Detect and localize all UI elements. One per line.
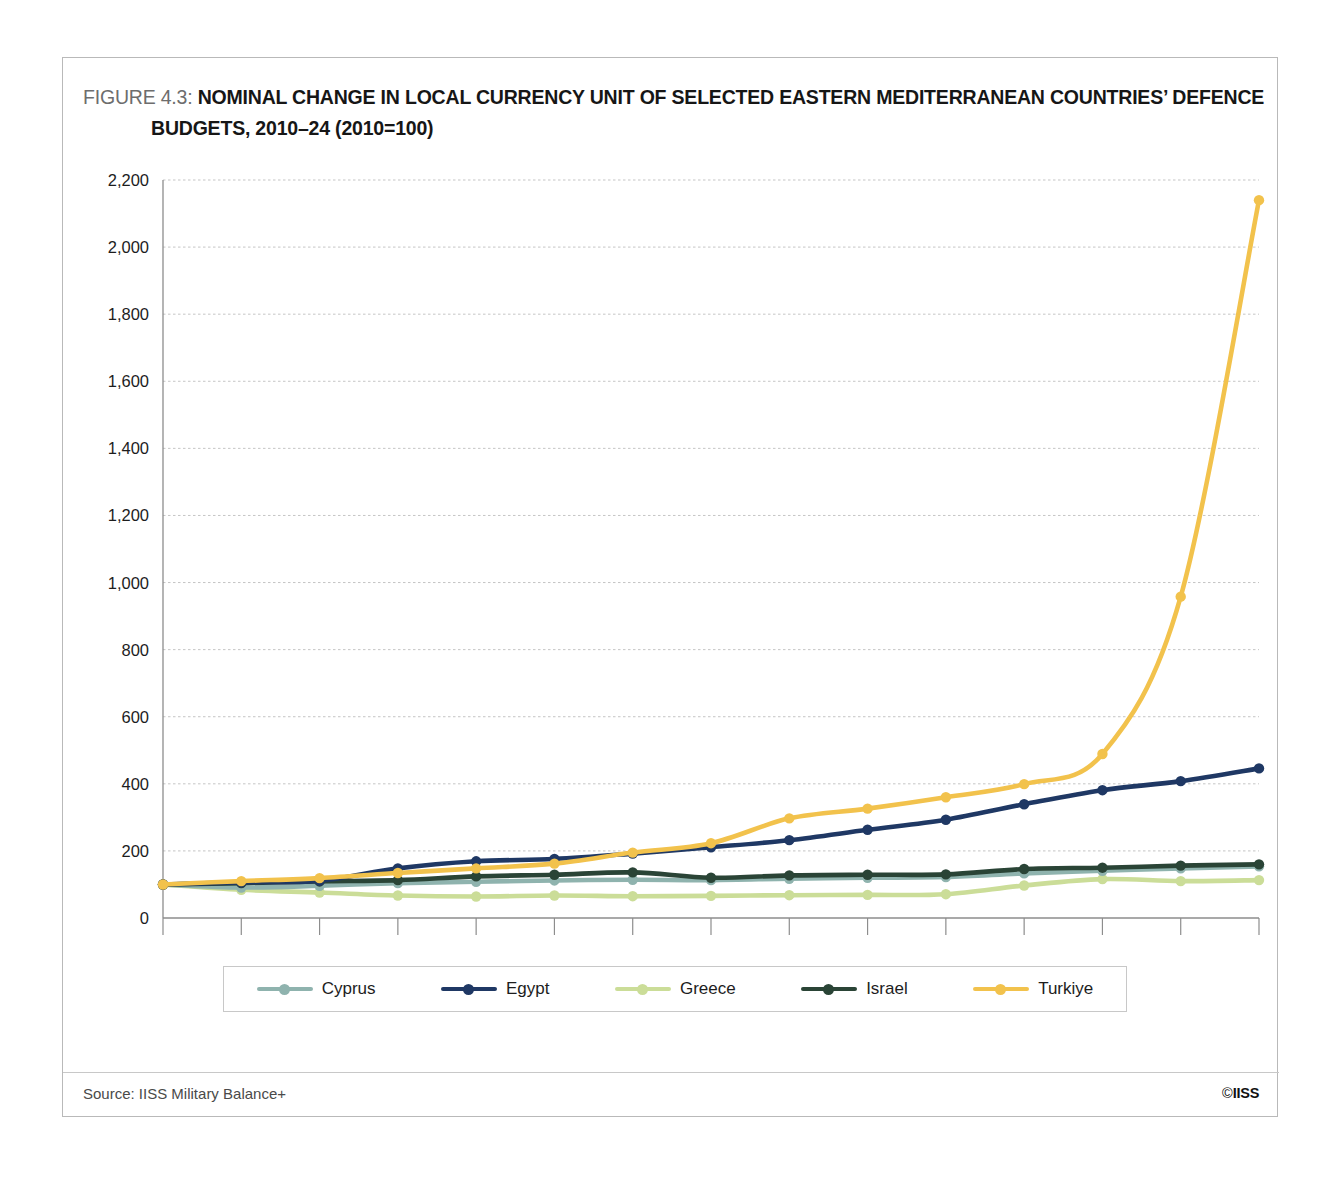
data-point	[236, 876, 246, 886]
plot-area: 02004006008001,0001,2001,4001,6001,8002,…	[63, 153, 1279, 953]
data-point	[1176, 860, 1186, 870]
data-point	[1097, 785, 1107, 795]
y-axis-tick-label: 600	[121, 708, 149, 726]
data-point	[784, 890, 794, 900]
data-point	[862, 890, 872, 900]
x-axis-tick-label: 2014	[458, 950, 495, 953]
data-point	[393, 868, 403, 878]
legend-label: Egypt	[506, 979, 549, 999]
data-point	[549, 890, 559, 900]
data-point	[628, 847, 638, 857]
x-axis-tick-label: 2016	[614, 950, 651, 953]
legend-swatch-icon	[801, 982, 857, 996]
legend-item-egypt[interactable]: Egypt	[441, 979, 549, 999]
data-point	[706, 891, 716, 901]
iiss-copyright: ©IISS	[1222, 1085, 1259, 1101]
data-point	[1254, 763, 1264, 773]
x-axis-tick-label: 2018	[771, 950, 808, 953]
x-axis-tick-label: 2020	[927, 950, 964, 953]
series-turkiye	[158, 195, 1264, 890]
legend-label: Turkiye	[1038, 979, 1093, 999]
data-point	[784, 835, 794, 845]
data-point	[1176, 591, 1186, 601]
data-point	[471, 891, 481, 901]
source-note: Source: IISS Military Balance+	[83, 1085, 286, 1102]
series-line-turkiye	[163, 200, 1259, 884]
y-axis-tick-label: 1,200	[108, 506, 149, 524]
x-axis-tick-label: 2012	[301, 950, 338, 953]
data-point	[1254, 875, 1264, 885]
x-axis-tick-label: 2015	[536, 950, 573, 953]
data-point	[1176, 876, 1186, 886]
x-axis-tick-label: 2017	[693, 950, 730, 953]
legend-swatch-icon	[973, 982, 1029, 996]
data-point	[1097, 749, 1107, 759]
data-point	[862, 825, 872, 835]
y-axis-tick-label: 1,000	[108, 574, 149, 592]
data-point	[706, 838, 716, 848]
data-point	[1254, 859, 1264, 869]
legend-item-turkiye[interactable]: Turkiye	[973, 979, 1093, 999]
x-axis-tick-label: 2019	[849, 950, 886, 953]
data-point	[862, 803, 872, 813]
figure-title-text-2: BUDGETS, 2010–24 (2010=100)	[151, 117, 433, 139]
figure-title-line-1: FIGURE 4.3: NOMINAL CHANGE IN LOCAL CURR…	[83, 82, 1263, 113]
data-point	[706, 873, 716, 883]
chart-legend: CyprusEgyptGreeceIsraelTurkiye	[223, 966, 1127, 1012]
y-axis-tick-label: 0	[140, 909, 149, 927]
data-point	[314, 873, 324, 883]
data-point	[784, 870, 794, 880]
figure-title-block: FIGURE 4.3: NOMINAL CHANGE IN LOCAL CURR…	[83, 82, 1263, 144]
figure-card: FIGURE 4.3: NOMINAL CHANGE IN LOCAL CURR…	[62, 57, 1278, 1117]
x-axis-tick-label: 2021	[1006, 950, 1043, 953]
legend-swatch-icon	[257, 982, 313, 996]
legend-label: Israel	[866, 979, 908, 999]
y-axis-tick-label: 2,200	[108, 171, 149, 189]
data-point	[1176, 776, 1186, 786]
data-point	[393, 890, 403, 900]
legend-label: Greece	[680, 979, 736, 999]
x-axis-tick-label: 2023	[1162, 950, 1199, 953]
figure-title-line-2: BUDGETS, 2010–24 (2010=100)	[83, 113, 1263, 144]
legend-swatch-icon	[441, 982, 497, 996]
legend-swatch-icon	[615, 982, 671, 996]
figure-title-text-1: NOMINAL CHANGE IN LOCAL CURRENCY UNIT OF…	[198, 86, 1264, 108]
data-point	[941, 889, 951, 899]
data-point	[1097, 862, 1107, 872]
figure-footer: Source: IISS Military Balance+ ©IISS	[63, 1072, 1279, 1116]
data-point	[784, 813, 794, 823]
data-point	[628, 891, 638, 901]
data-point	[941, 815, 951, 825]
y-axis-tick-label: 2,000	[108, 238, 149, 256]
figure-number-label: FIGURE 4.3:	[83, 86, 192, 108]
data-point	[1019, 799, 1029, 809]
legend-item-cyprus[interactable]: Cyprus	[257, 979, 376, 999]
y-axis-tick-label: 1,800	[108, 305, 149, 323]
legend-item-greece[interactable]: Greece	[615, 979, 736, 999]
data-point	[862, 870, 872, 880]
data-point	[471, 863, 481, 873]
x-axis-tick-label: 2024	[1241, 950, 1278, 953]
x-axis-tick-label: 2011	[224, 950, 259, 953]
y-axis-tick-label: 1,600	[108, 372, 149, 390]
x-axis-tick-label: 2013	[379, 950, 416, 953]
data-point	[549, 870, 559, 880]
data-point	[628, 867, 638, 877]
data-point	[1254, 195, 1264, 205]
legend-item-israel[interactable]: Israel	[801, 979, 908, 999]
line-chart: 02004006008001,0001,2001,4001,6001,8002,…	[63, 153, 1279, 953]
copyright-symbol: ©	[1222, 1085, 1233, 1101]
data-point	[1019, 779, 1029, 789]
data-point	[1019, 880, 1029, 890]
data-point	[158, 879, 168, 889]
legend-label: Cyprus	[322, 979, 376, 999]
x-axis-tick-label: 2022	[1084, 950, 1121, 953]
data-point	[941, 869, 951, 879]
y-axis-tick-label: 800	[121, 641, 149, 659]
data-point	[1019, 864, 1029, 874]
x-axis-tick-label: 2010	[145, 950, 182, 953]
data-point	[549, 858, 559, 868]
y-axis-tick-label: 1,400	[108, 439, 149, 457]
y-axis-tick-label: 400	[121, 775, 149, 793]
y-axis-tick-label: 200	[121, 842, 149, 860]
